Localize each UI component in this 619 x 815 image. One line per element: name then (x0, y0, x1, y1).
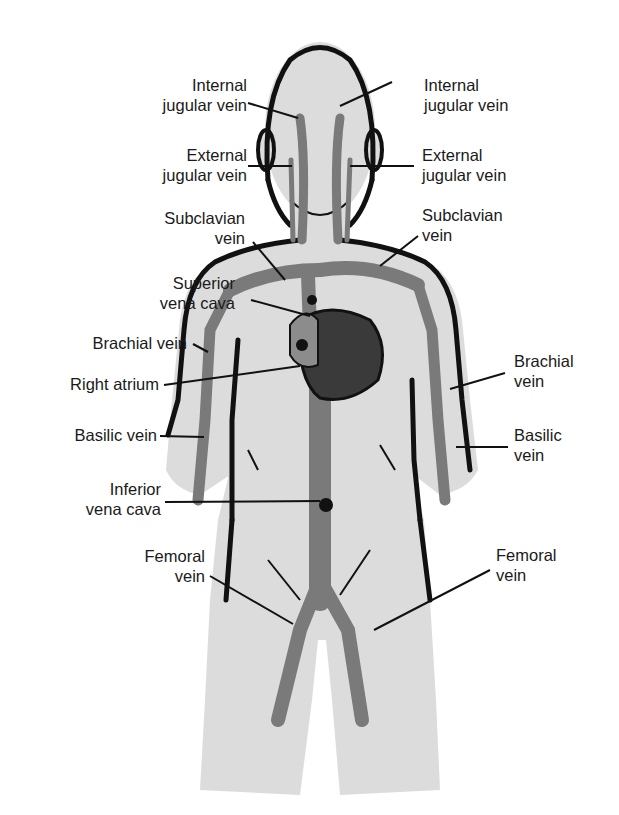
label-internal-jugular-vein-right: Internal jugular vein (424, 75, 508, 115)
label-superior-vena-cava: Superior vena cava (160, 273, 235, 313)
label-femoral-vein-right: Femoral vein (496, 545, 557, 585)
venous-system-diagram: Internal jugular vein External jugular v… (0, 0, 619, 815)
label-right-atrium: Right atrium (70, 374, 159, 394)
label-external-jugular-vein-right: External jugular vein (422, 145, 506, 185)
label-basilic-vein-right: Basilic vein (514, 425, 562, 465)
label-subclavian-vein-left: Subclavian vein (164, 208, 245, 248)
label-external-jugular-vein-left: External jugular vein (163, 145, 247, 185)
label-internal-jugular-vein-left: Internal jugular vein (163, 75, 247, 115)
label-femoral-vein-left: Femoral vein (144, 546, 205, 586)
body-illustration (0, 0, 619, 815)
label-subclavian-vein-right: Subclavian vein (422, 205, 503, 245)
label-inferior-vena-cava: Inferior vena cava (86, 479, 161, 519)
label-brachial-vein-right: Brachial vein (514, 351, 574, 391)
label-basilic-vein-left: Basilic vein (74, 425, 157, 445)
label-brachial-vein-left: Brachial vein (93, 333, 187, 353)
